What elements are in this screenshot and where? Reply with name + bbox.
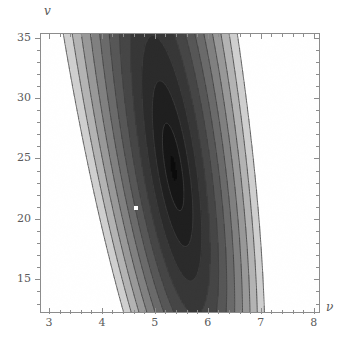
y-tick-minor-right	[316, 267, 320, 268]
y-tick-major-right	[314, 279, 320, 280]
x-tick-minor-top	[282, 33, 283, 37]
y-tick-minor	[37, 110, 41, 111]
x-tick-minor-top	[240, 33, 241, 37]
x-tick-minor	[81, 310, 82, 314]
y-tick-minor-right	[316, 146, 320, 147]
x-tick-minor-top	[250, 33, 251, 37]
y-tick-minor-right	[316, 304, 320, 305]
x-tick-minor	[60, 310, 61, 314]
y-tick-minor-right	[316, 195, 320, 196]
y-tick-minor	[37, 86, 41, 87]
y-tick-minor-right	[316, 291, 320, 292]
x-tick-major	[102, 308, 103, 314]
y-tick-major	[35, 98, 41, 99]
y-tick-minor-right	[316, 50, 320, 51]
y-tick-minor	[37, 134, 41, 135]
x-tick-minor	[165, 310, 166, 314]
contour-field	[41, 34, 319, 312]
x-tick-label: 7	[251, 316, 271, 329]
y-tick-label: 30	[5, 91, 31, 104]
x-tick-minor-top	[197, 33, 198, 37]
x-tick-major-top	[49, 33, 50, 39]
x-tick-major	[49, 308, 50, 314]
x-tick-major-top	[314, 33, 315, 39]
x-tick-label: 8	[304, 316, 324, 329]
x-tick-minor	[282, 310, 283, 314]
y-tick-label: 35	[5, 31, 31, 44]
x-tick-minor	[240, 310, 241, 314]
x-tick-minor-top	[303, 33, 304, 37]
y-tick-minor	[37, 267, 41, 268]
y-tick-minor	[37, 255, 41, 256]
y-tick-minor	[37, 231, 41, 232]
x-tick-minor	[250, 310, 251, 314]
y-tick-major	[35, 38, 41, 39]
y-tick-minor-right	[316, 86, 320, 87]
x-tick-minor	[112, 310, 113, 314]
x-tick-major-top	[208, 33, 209, 39]
plot-frame	[40, 33, 320, 313]
y-tick-major-right	[314, 219, 320, 220]
y-tick-minor	[37, 195, 41, 196]
y-tick-major-right	[314, 38, 320, 39]
x-tick-minor	[303, 310, 304, 314]
y-tick-minor	[37, 146, 41, 147]
y-tick-minor-right	[316, 231, 320, 232]
x-tick-minor	[218, 310, 219, 314]
x-tick-minor	[187, 310, 188, 314]
x-tick-minor	[229, 310, 230, 314]
x-tick-minor-top	[176, 33, 177, 37]
x-tick-major-top	[261, 33, 262, 39]
y-tick-minor-right	[316, 171, 320, 172]
x-tick-minor	[293, 310, 294, 314]
y-tick-minor	[37, 171, 41, 172]
optimum-point-marker	[134, 206, 138, 210]
y-tick-minor-right	[316, 134, 320, 135]
y-tick-minor-right	[316, 183, 320, 184]
x-tick-label: 3	[39, 316, 59, 329]
y-tick-minor	[37, 62, 41, 63]
y-tick-label: 15	[5, 272, 31, 285]
x-tick-minor-top	[81, 33, 82, 37]
y-tick-label: 20	[5, 212, 31, 225]
y-tick-minor	[37, 243, 41, 244]
x-tick-minor-top	[134, 33, 135, 37]
y-tick-minor	[37, 74, 41, 75]
x-tick-minor	[123, 310, 124, 314]
y-tick-minor-right	[316, 110, 320, 111]
y-tick-minor-right	[316, 62, 320, 63]
y-tick-minor	[37, 50, 41, 51]
x-tick-minor-top	[293, 33, 294, 37]
y-tick-major	[35, 279, 41, 280]
y-tick-major	[35, 158, 41, 159]
y-tick-minor	[37, 183, 41, 184]
y-tick-minor	[37, 291, 41, 292]
x-tick-minor	[144, 310, 145, 314]
y-axis-label: v	[44, 4, 51, 18]
x-tick-minor-top	[112, 33, 113, 37]
field-grain	[41, 34, 319, 312]
y-tick-minor-right	[316, 255, 320, 256]
y-tick-minor	[37, 122, 41, 123]
y-tick-major	[35, 219, 41, 220]
x-tick-minor	[70, 310, 71, 314]
x-tick-minor-top	[218, 33, 219, 37]
x-tick-major	[208, 308, 209, 314]
x-tick-label: 4	[92, 316, 112, 329]
x-tick-major	[155, 308, 156, 314]
x-tick-minor-top	[123, 33, 124, 37]
x-tick-minor	[134, 310, 135, 314]
y-tick-minor-right	[316, 122, 320, 123]
y-tick-label: 25	[5, 151, 31, 164]
y-tick-minor	[37, 207, 41, 208]
x-axis-label: ν	[326, 300, 333, 314]
y-tick-minor-right	[316, 207, 320, 208]
x-tick-minor-top	[229, 33, 230, 37]
y-tick-minor	[37, 304, 41, 305]
y-tick-major-right	[314, 158, 320, 159]
x-tick-major-top	[102, 33, 103, 39]
x-tick-label: 6	[198, 316, 218, 329]
x-tick-major	[261, 308, 262, 314]
y-tick-major-right	[314, 98, 320, 99]
x-tick-minor-top	[91, 33, 92, 37]
